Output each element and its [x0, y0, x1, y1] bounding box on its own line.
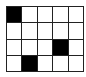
grid-cell-r0-c3[interactable] — [53, 7, 67, 22]
grid-cell-r2-c4[interactable] — [69, 40, 83, 55]
grid-cell-r2-c2[interactable] — [38, 40, 52, 55]
grid-cell-r1-c3[interactable] — [53, 23, 67, 38]
grid-cell-r3-c3[interactable] — [53, 56, 67, 71]
game-grid — [6, 6, 84, 72]
grid-cell-r0-c2[interactable] — [38, 7, 52, 22]
grid-cell-r3-c0[interactable] — [7, 56, 21, 71]
grid-cell-r1-c4[interactable] — [69, 23, 83, 38]
grid-cell-r0-c1[interactable] — [22, 7, 36, 22]
grid-cell-r2-c1[interactable] — [22, 40, 36, 55]
grid-cell-r0-c4[interactable] — [69, 7, 83, 22]
grid-cell-r0-c0[interactable] — [7, 7, 21, 22]
grid-cell-r3-c2[interactable] — [38, 56, 52, 71]
grid-cell-r2-c0[interactable] — [7, 40, 21, 55]
grid-cell-r1-c0[interactable] — [7, 23, 21, 38]
grid-cell-r2-c3[interactable] — [53, 40, 67, 55]
grid-cell-r3-c4[interactable] — [69, 56, 83, 71]
grid-cell-r3-c1[interactable] — [22, 56, 36, 71]
grid-cell-r1-c1[interactable] — [22, 23, 36, 38]
grid-cell-r1-c2[interactable] — [38, 23, 52, 38]
